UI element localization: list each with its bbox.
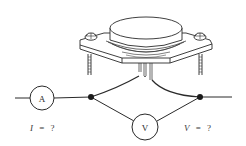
ammeter: A	[30, 86, 54, 110]
wire-junction-to-lead-left	[91, 76, 139, 97]
wire-ammeter-to-junction	[54, 97, 91, 98]
voltage-value: ?	[207, 123, 211, 133]
transistor-leads	[139, 63, 152, 80]
mounting-post-left	[88, 54, 91, 75]
current-variable: I	[29, 123, 34, 133]
voltmeter-symbol: V	[142, 123, 149, 133]
transistor-package	[80, 17, 212, 80]
wire-voltmeter-to-junction-right	[157, 97, 200, 121]
voltmeter: V	[132, 114, 158, 140]
current-equals: =	[39, 123, 44, 133]
voltage-variable: V	[184, 123, 191, 133]
ammeter-symbol: A	[39, 94, 46, 104]
screw-right	[194, 33, 206, 40]
wire-junction-to-voltmeter-left	[91, 97, 134, 121]
junction-right	[197, 94, 203, 100]
mounting-post-right	[199, 54, 202, 75]
current-label: I = ?	[29, 123, 55, 133]
junction-left	[88, 94, 94, 100]
voltage-equals: =	[196, 123, 201, 133]
wire-lead-to-junction-right	[152, 80, 200, 97]
current-value: ?	[51, 123, 55, 133]
circuit-diagram: A V I = ? V = ?	[0, 0, 246, 146]
voltage-label: V = ?	[184, 123, 211, 133]
screw-left	[85, 33, 97, 40]
